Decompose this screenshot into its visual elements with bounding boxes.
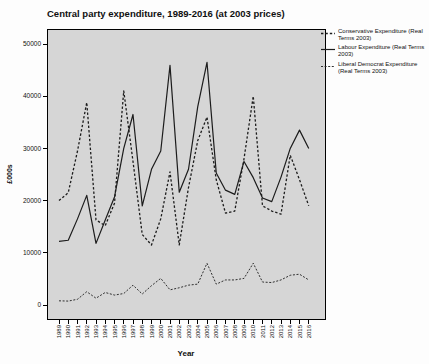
x-tick-label: 1993 xyxy=(93,324,99,338)
x-tick-label: 1999 xyxy=(149,324,155,338)
legend-item-liberal: Liberal Democrat Expenditure (Real Terms… xyxy=(321,61,427,74)
x-axis-ticks: 1989199019911992199319941995199619971998… xyxy=(56,319,312,338)
x-tick-label: 2000 xyxy=(158,324,164,338)
x-tick-label: 2011 xyxy=(260,324,266,338)
legend-label-conservative: Conservative Expenditure (Real Terms 200… xyxy=(338,28,427,41)
x-tick-label: 2013 xyxy=(278,324,284,338)
x-tick-label: 2012 xyxy=(269,324,275,338)
legend-item-conservative: Conservative Expenditure (Real Terms 200… xyxy=(321,28,427,41)
x-tick-label: 2006 xyxy=(213,324,219,338)
y-tick-label: 20000 xyxy=(23,197,41,204)
x-tick-label: 2004 xyxy=(195,324,201,338)
y-tick-label: 10000 xyxy=(23,249,41,256)
x-tick-label: 2007 xyxy=(223,324,229,338)
x-tick-label: 2003 xyxy=(186,324,192,338)
x-tick-label: 1995 xyxy=(112,324,118,338)
x-tick-label: 1989 xyxy=(56,324,62,338)
y-axis-title: £000s xyxy=(6,164,13,184)
legend-label-labour: Labour Expenditure (Real Terms 2003) xyxy=(338,44,427,57)
y-tick-label: 30000 xyxy=(23,145,41,152)
x-tick-label: 1998 xyxy=(139,324,145,338)
x-tick-label: 1997 xyxy=(130,324,136,338)
y-tick-label: 50000 xyxy=(23,40,41,47)
y-tick-label: 0 xyxy=(37,301,41,308)
x-tick-label: 2010 xyxy=(250,324,256,338)
legend-label-liberal: Liberal Democrat Expenditure (Real Terms… xyxy=(338,61,427,74)
x-tick-label: 1992 xyxy=(84,324,90,338)
x-axis-title: Year xyxy=(178,349,195,358)
y-tick-label: 40000 xyxy=(23,92,41,99)
x-tick-label: 1996 xyxy=(121,324,127,338)
legend-line-sample-liberal xyxy=(321,63,336,71)
legend-line-sample-labour xyxy=(321,46,336,54)
x-tick-label: 2002 xyxy=(176,324,182,338)
legend-item-labour: Labour Expenditure (Real Terms 2003) xyxy=(321,44,427,57)
x-tick-label: 2016 xyxy=(306,324,312,338)
x-tick-label: 2005 xyxy=(204,324,210,338)
x-tick-label: 1990 xyxy=(65,324,71,338)
legend-line-sample-conservative xyxy=(321,30,336,38)
x-tick-label: 2001 xyxy=(167,324,173,338)
x-tick-label: 1991 xyxy=(75,324,81,338)
legend: Conservative Expenditure (Real Terms 200… xyxy=(321,28,427,74)
x-tick-label: 2015 xyxy=(297,324,303,338)
x-tick-label: 2014 xyxy=(287,324,293,338)
x-tick-label: 2008 xyxy=(232,324,238,338)
x-tick-label: 1994 xyxy=(102,324,108,338)
x-tick-label: 2009 xyxy=(241,324,247,338)
y-axis-ticks: 01000020000300004000050000 xyxy=(23,40,47,308)
